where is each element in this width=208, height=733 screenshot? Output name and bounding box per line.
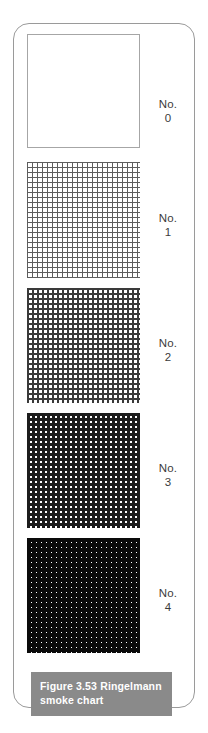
panel-no-0 [27,34,140,148]
smoke-swatch-level-0 [27,34,140,148]
panel-label-no-3: No. 3 [146,462,190,489]
panel-no-2 [27,288,140,403]
panel-label-word-1: No. [146,212,190,226]
panel-label-number-1: 1 [146,226,190,240]
panel-label-no-1: No. 1 [146,212,190,239]
panel-no-3 [27,413,140,528]
figure-caption-line-1: Figure 3.53 Ringelmann [40,679,163,693]
panel-label-no-2: No. 2 [146,337,190,364]
panel-label-word-4: No. [146,587,190,601]
panel-label-word-0: No. [146,98,190,112]
ringelmann-smoke-chart-figure: No. 0 No. 1 No. 2 No. 3 No. 4 Figure 3.5… [0,0,208,733]
panel-label-no-0: No. 0 [146,98,190,125]
panel-label-word-2: No. [146,337,190,351]
panel-label-number-0: 0 [146,112,190,126]
smoke-swatch-level-1 [27,162,140,278]
panel-label-word-3: No. [146,462,190,476]
smoke-swatch-level-2 [27,288,140,403]
panel-no-1 [27,162,140,278]
figure-caption: Figure 3.53 Ringelmann smoke chart [31,672,172,716]
panel-no-4 [27,538,140,653]
smoke-swatch-level-4 [27,538,140,653]
panel-label-number-2: 2 [146,351,190,365]
smoke-swatch-level-3 [27,413,140,528]
panel-label-no-4: No. 4 [146,587,190,614]
figure-caption-line-2: smoke chart [40,693,163,707]
panel-label-number-3: 3 [146,476,190,490]
panel-label-number-4: 4 [146,601,190,615]
